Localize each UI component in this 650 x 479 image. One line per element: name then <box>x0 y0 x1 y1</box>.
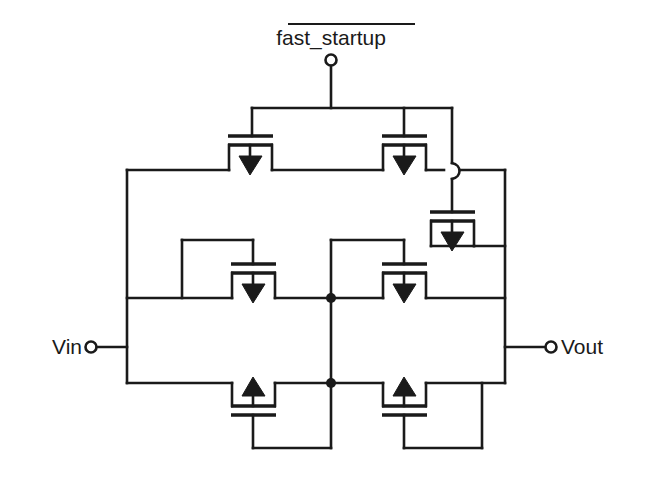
transistor-m6 <box>231 377 276 415</box>
m5-bulk-arrow-down <box>393 284 416 303</box>
output-terminal-ring[interactable] <box>546 342 557 353</box>
transistor-m5 <box>382 264 427 303</box>
control-terminal-ring[interactable] <box>326 55 337 66</box>
control-signal-label: fast_startup <box>276 26 386 50</box>
m4-bulk-arrow-down <box>242 284 265 303</box>
input-terminal-group[interactable]: Vin <box>52 335 127 358</box>
transistor-m7 <box>382 377 427 415</box>
transistor-m4 <box>231 264 276 303</box>
schematic-canvas: fast_startup <box>0 0 650 479</box>
m6-bulk-arrow-up <box>242 377 265 396</box>
output-terminal-group[interactable]: Vout <box>505 335 603 358</box>
m1-bulk-arrow-down <box>239 156 262 175</box>
control-signal-label-group: fast_startup <box>276 24 415 50</box>
input-terminal-ring[interactable] <box>86 342 97 353</box>
wire-hop-crossover <box>452 163 460 179</box>
control-terminal-group[interactable] <box>326 55 337 109</box>
m7-bulk-arrow-up <box>393 377 416 396</box>
junction-center-upper <box>326 293 336 303</box>
transistor-m1 <box>228 136 273 175</box>
output-terminal-label: Vout <box>561 335 603 358</box>
gate-bus-group <box>252 108 460 212</box>
junction-center-lower <box>326 378 336 388</box>
m3-bulk-arrow-down <box>441 232 464 251</box>
m2-bulk-arrow-down <box>393 156 416 175</box>
input-terminal-label: Vin <box>52 335 82 358</box>
circuit-schematic: fast_startup <box>0 0 650 479</box>
transistor-m2 <box>382 136 427 175</box>
